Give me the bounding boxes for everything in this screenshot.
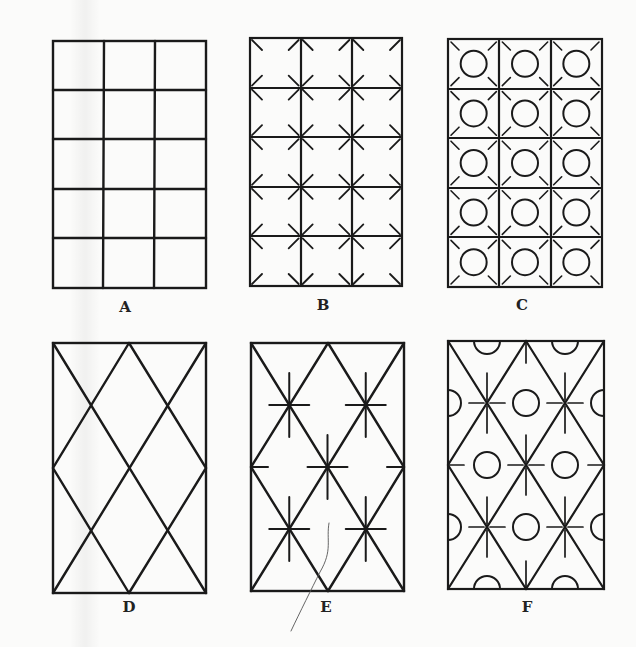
panel-b-stubs	[252, 40, 400, 284]
panel-f	[448, 341, 604, 589]
label-a: A	[119, 298, 131, 316]
panel-b	[250, 38, 402, 286]
label-c: C	[516, 296, 528, 314]
label-e: E	[320, 598, 331, 616]
panel-c-circles	[461, 51, 590, 275]
panel-c-stubs	[451, 42, 599, 284]
label-f: F	[522, 598, 533, 616]
label-d: D	[122, 598, 135, 616]
label-b: B	[317, 296, 330, 314]
panel-d	[53, 343, 206, 593]
panel-a	[53, 41, 206, 288]
panel-e-crosses	[251, 373, 404, 561]
pattern-figure	[0, 0, 636, 647]
